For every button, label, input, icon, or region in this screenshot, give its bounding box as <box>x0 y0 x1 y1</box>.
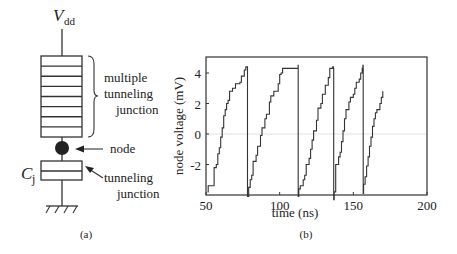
ground-icon <box>46 206 77 213</box>
tj-label-line1: tunneling <box>104 170 154 185</box>
x-tick-label: 200 <box>417 198 437 213</box>
node-arrow-icon <box>75 146 84 153</box>
mtj-label-line1: multiple <box>104 70 148 85</box>
voltage-line <box>208 65 383 199</box>
y-axis-label: node voltage (mV) <box>171 77 186 175</box>
caption-a: (a) <box>80 228 93 241</box>
x-tick-label: 150 <box>344 198 364 213</box>
multiple-tunneling-junction-stack <box>41 56 82 137</box>
voltage-trace <box>208 65 383 199</box>
panel-a-circuit: V dd multiple tunneling junction node C … <box>21 6 160 241</box>
panel-b-chart: 420-2 50100150200 node voltage (mV) time… <box>171 57 437 241</box>
figure: V dd multiple tunneling junction node C … <box>0 0 457 254</box>
node-dot-icon <box>55 141 69 155</box>
node-label: node <box>110 141 136 156</box>
brace-icon <box>88 56 98 137</box>
y-tick-label: 4 <box>195 66 202 81</box>
mtj-label-line3: junction <box>115 102 159 117</box>
y-tick-label: -2 <box>190 158 201 173</box>
x-axis-label: time (ns) <box>272 205 319 220</box>
mtj-label-line2: tunneling <box>104 86 154 101</box>
cj-subscript: j <box>31 172 35 186</box>
caption-b: (b) <box>300 228 313 241</box>
y-tick-label: 2 <box>195 97 202 112</box>
vdd-subscript: dd <box>64 15 76 27</box>
tj-label-line2: junction <box>116 186 160 201</box>
x-tick-label: 50 <box>200 198 213 213</box>
y-tick-label: 0 <box>195 127 202 142</box>
